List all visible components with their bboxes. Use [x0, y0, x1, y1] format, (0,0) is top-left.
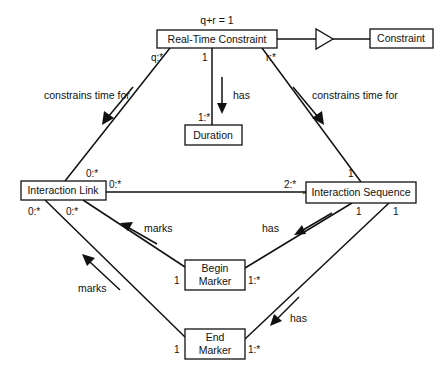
mult-rtc-r: r:* — [266, 52, 276, 63]
mult-link-begin: 0:* — [66, 206, 78, 217]
class-begin-marker-label-1: Begin — [202, 262, 229, 274]
label-marks-end: marks — [78, 282, 107, 294]
mult-rtc-q: q:* — [151, 52, 163, 63]
class-interaction-link-label: Interaction Link — [27, 184, 99, 196]
mult-end-link: 1 — [174, 344, 180, 355]
mult-link-rtc: 0:* — [86, 168, 98, 179]
class-end-marker-label-2: Marker — [199, 344, 232, 356]
mult-sequence-end: 1 — [393, 206, 399, 217]
uml-diagram: × Real-Time Constraint Constraint Durati… — [0, 0, 442, 374]
arrowhead-icon — [217, 103, 227, 114]
mult-sequence-begin: 1 — [356, 206, 362, 217]
generalization-triangle-icon — [316, 29, 333, 49]
assoc-sequence-begin-line — [245, 203, 352, 268]
assoc-rtc-sequence-line — [262, 48, 361, 182]
arrowhead-icon — [294, 225, 306, 235]
label-has-duration: has — [233, 89, 250, 101]
mult-rtc-duration: 1 — [202, 52, 208, 63]
label-marks-begin: marks — [144, 222, 173, 234]
mult-end-sequence: 1:* — [248, 344, 260, 355]
constraint-note: q+r = 1 — [200, 14, 233, 26]
label-has-begin: has — [262, 222, 279, 234]
mult-link-sequence-link: 0:* — [109, 179, 121, 190]
class-real-time-constraint-label: Real-Time Constraint — [168, 33, 267, 45]
mult-link-sequence-seq: 2:* — [284, 179, 296, 190]
mult-sequence-rtc: 1 — [348, 168, 354, 179]
label-has-end: has — [290, 312, 307, 324]
direction-arrow-has-begin — [303, 213, 332, 230]
mult-begin-sequence: 1:* — [248, 275, 260, 286]
mult-duration: 1:* — [198, 112, 210, 123]
mult-begin-link: 1 — [174, 275, 180, 286]
class-end-marker-label-1: End — [206, 331, 225, 343]
label-constrains-right: constrains time for — [312, 89, 398, 101]
class-constraint-label: Constraint — [377, 32, 425, 44]
label-constrains-left: constrains time for — [44, 89, 130, 101]
class-duration-label: Duration — [193, 129, 233, 141]
assoc-rtc-link-line — [65, 48, 170, 181]
mult-link-end: 0:* — [28, 206, 40, 217]
class-interaction-sequence-label: Interaction Sequence — [311, 186, 410, 198]
class-begin-marker-label-2: Marker — [199, 275, 232, 287]
